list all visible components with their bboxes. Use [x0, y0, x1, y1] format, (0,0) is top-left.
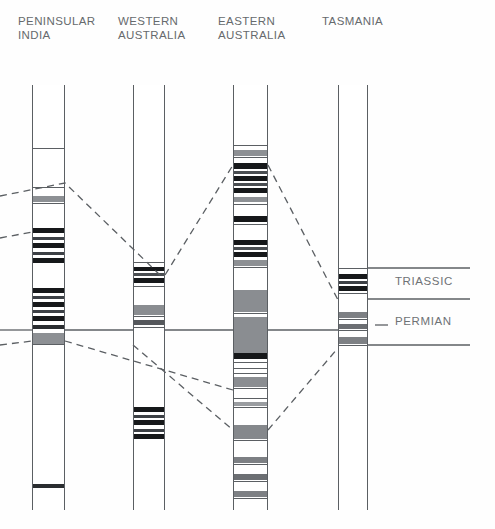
- strat-band: [33, 148, 64, 149]
- strat-band: [234, 188, 267, 193]
- column-title-eastern-australia: EASTERN AUSTRALIA: [218, 14, 286, 42]
- strat-band: [234, 353, 267, 359]
- strat-band: [234, 440, 267, 441]
- correlation-line: [0, 232, 32, 238]
- strat-band: [134, 415, 164, 418]
- strat-band: [234, 290, 267, 312]
- strat-band: [234, 368, 267, 369]
- strat-band: [33, 302, 64, 307]
- strat-band: [134, 286, 164, 287]
- correlation-line: [165, 165, 233, 275]
- strat-band: [33, 288, 64, 293]
- strat-band: [33, 237, 64, 240]
- strat-band: [234, 176, 267, 181]
- strat-band: [234, 197, 267, 202]
- strat-band: [134, 407, 164, 412]
- stratigraphic-correlation-figure: PENINSULAR INDIA WESTERN AUSTRALIA EASTE…: [0, 0, 495, 529]
- strat-band: [134, 316, 164, 317]
- strat-band: [339, 286, 367, 291]
- strat-band: [134, 278, 164, 283]
- strat-band: [33, 310, 64, 313]
- strat-column-western-australia: [133, 85, 165, 510]
- strat-band: [234, 204, 267, 205]
- correlation-line: [268, 348, 338, 430]
- strat-band: [33, 203, 64, 204]
- strat-band: [234, 260, 267, 266]
- strat-band: [234, 171, 267, 174]
- strat-band: [234, 402, 267, 406]
- era-label-permian: PERMIAN: [395, 315, 452, 327]
- strat-column-eastern-australia: [233, 85, 268, 510]
- strat-band: [339, 268, 367, 269]
- strat-band: [33, 258, 64, 263]
- strat-band: [339, 337, 367, 344]
- strat-band: [234, 407, 267, 408]
- strat-band: [234, 317, 267, 353]
- strat-band: [339, 293, 367, 294]
- strat-band: [234, 163, 267, 169]
- strat-band: [234, 267, 267, 268]
- strat-band: [234, 247, 267, 250]
- strat-band: [134, 429, 164, 432]
- column-title-western-australia: WESTERN AUSTRALIA: [118, 14, 186, 42]
- strat-band: [234, 183, 267, 186]
- strat-band: [234, 398, 267, 399]
- era-label-triassic: TRIASSIC: [395, 275, 453, 287]
- strat-band: [33, 484, 64, 488]
- strat-band: [234, 388, 267, 389]
- strat-band: [234, 240, 267, 245]
- strat-column-peninsular-india: [32, 85, 65, 510]
- strat-band: [339, 330, 367, 331]
- correlation-line: [268, 165, 338, 300]
- strat-band: [33, 344, 64, 345]
- strat-band: [234, 474, 267, 480]
- strat-band: [234, 157, 267, 158]
- strat-band: [33, 196, 64, 202]
- strat-band: [234, 491, 267, 497]
- strat-band: [134, 320, 164, 325]
- column-title-peninsular-india: PENINSULAR INDIA: [18, 14, 96, 42]
- correlation-line: [0, 341, 32, 345]
- strat-band: [339, 345, 367, 346]
- strat-band: [33, 187, 64, 188]
- strat-band: [33, 243, 64, 248]
- strat-band: [234, 457, 267, 463]
- strat-band: [339, 281, 367, 284]
- strat-band: [234, 252, 267, 257]
- strat-band: [134, 267, 164, 271]
- strat-band: [339, 312, 367, 318]
- strat-band: [234, 145, 267, 146]
- column-title-tasmania: TASMANIA: [322, 14, 383, 28]
- strat-band: [234, 481, 267, 482]
- strat-band: [234, 425, 267, 439]
- strat-column-tasmania: [338, 85, 368, 510]
- strat-band: [134, 327, 164, 328]
- strat-band: [33, 325, 64, 329]
- strat-band: [134, 305, 164, 315]
- strat-band: [33, 296, 64, 299]
- strat-band: [234, 377, 267, 387]
- strat-band: [234, 464, 267, 465]
- strat-band: [134, 420, 164, 425]
- strat-band: [234, 498, 267, 499]
- strat-band: [134, 262, 164, 263]
- strat-band: [339, 324, 367, 329]
- strat-band: [234, 150, 267, 156]
- strat-band: [234, 224, 267, 225]
- strat-band: [339, 274, 367, 279]
- strat-band: [134, 273, 164, 276]
- strat-band: [33, 228, 64, 233]
- strat-band: [33, 333, 64, 344]
- strat-band: [234, 373, 267, 374]
- strat-band: [339, 319, 367, 320]
- strat-band: [33, 316, 64, 321]
- strat-band: [234, 216, 267, 222]
- strat-band: [234, 313, 267, 314]
- strat-band: [134, 434, 164, 439]
- strat-band: [33, 252, 64, 255]
- strat-band: [234, 362, 267, 363]
